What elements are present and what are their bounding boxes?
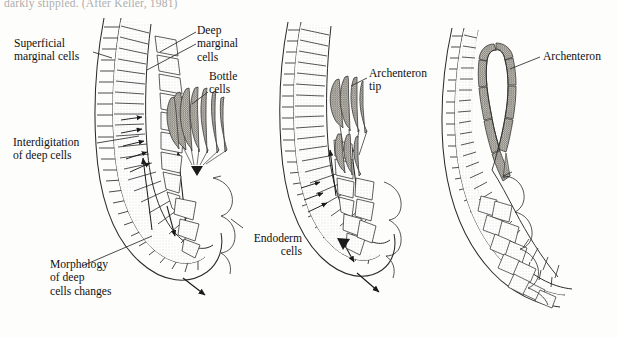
panel-1-bottle-cells [167,87,227,165]
label-interdigitation-of-deep-cells: Interdigitation of deep cells [13,136,103,163]
figure-root: darkly stippled. (After Keller, 1981) [0,0,617,338]
label-bottle-cells: Bottle cells [209,70,257,97]
panel-1-outer-loose-cells [213,176,235,274]
panel-1-blastopore-lip [191,166,203,176]
panel-1-vegetal-arrow [183,278,205,295]
leader-archenteron [510,57,540,69]
label-endoderm-cells: Endoderm cells [240,232,302,259]
panel-3 [442,28,572,308]
label-archenteron-tip: Archenteron tip [369,67,441,94]
panel-2-outer-loose-cells [384,182,401,278]
panel-3-archenteron [478,43,516,181]
label-morphology-of-deep-cells-changes: Morphology of deep cells changes [50,258,134,298]
label-archenteron: Archenteron [543,50,617,63]
label-superficial-marginal-cells: Superficial marginal cells [14,37,102,64]
label-deep-marginal-cells: Deep marginal cells [197,24,257,64]
